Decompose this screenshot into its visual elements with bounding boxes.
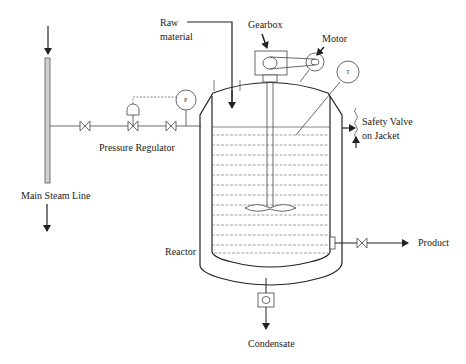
reactor-label: Reactor [165, 246, 197, 257]
motor-label: Motor [322, 33, 348, 44]
temperature-gauge-icon: T [296, 61, 359, 135]
diaphragm-actuator-icon [127, 104, 139, 115]
reactor-vessel: Reactor [165, 83, 342, 286]
pressure-gauge-icon: P [176, 90, 196, 126]
product-valve-icon[interactable] [357, 238, 367, 248]
safety-valve: Safety Valve on Jacket [342, 108, 413, 148]
isolation-valve-2-icon[interactable] [166, 121, 176, 131]
product-outlet: Product [330, 237, 449, 249]
steam-header-pipe [45, 58, 50, 183]
main-steam-line-label: Main Steam Line [21, 190, 91, 201]
safety-valve-label-1: Safety Valve [362, 116, 413, 127]
safety-valve-icon [355, 108, 358, 138]
raw-material-label-1: Raw [160, 17, 179, 28]
steam-supply-branch: P Pressure Regulator [50, 90, 201, 153]
pressure-regulator-label: Pressure Regulator [99, 142, 175, 153]
agitator-drive: Gearbox Motor [245, 19, 348, 211]
safety-valve-label-2: on Jacket [362, 130, 400, 141]
reactor-process-diagram: Main Steam Line P Pressure Regulator [0, 0, 466, 364]
svg-text:T: T [346, 69, 350, 75]
gearbox-label: Gearbox [248, 19, 282, 30]
steam-trap-icon [258, 293, 274, 307]
isolation-valve-1-icon[interactable] [80, 121, 90, 131]
gearbox-icon [255, 51, 287, 75]
motor-icon [306, 53, 324, 71]
product-label: Product [418, 237, 449, 248]
impeller-icon [245, 205, 296, 212]
liquid-lines [212, 135, 330, 253]
raw-material-feed: Raw material [160, 17, 240, 108]
raw-material-label-2: material [160, 31, 193, 42]
reactor-jacket [200, 83, 342, 286]
condensate-outlet: Condensate [248, 278, 295, 349]
condensate-label: Condensate [248, 338, 295, 349]
